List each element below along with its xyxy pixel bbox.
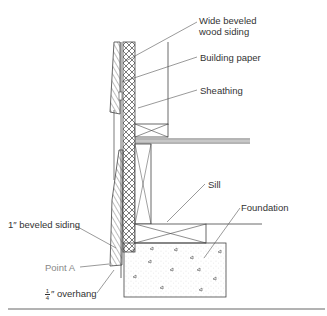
label-wide-siding-line1: Wide beveled — [199, 15, 257, 26]
label-sheathing: Sheathing — [200, 85, 243, 96]
foundation — [124, 243, 226, 297]
header-block — [135, 124, 168, 137]
label-wide-siding-line2: wood siding — [199, 26, 257, 37]
label-building-paper: Building paper — [200, 52, 261, 63]
label-sill: Sill — [208, 179, 221, 190]
wide-beveled-siding — [110, 42, 122, 114]
sill — [135, 224, 262, 243]
stud — [135, 144, 151, 224]
overhang-text: ″ overhang — [51, 288, 97, 299]
label-wide-siding: Wide beveled wood siding — [199, 15, 257, 37]
label-foundation: Foundation — [241, 202, 289, 213]
floor — [135, 139, 250, 143]
wall-section-diagram: Wide beveled wood siding Building paper … — [0, 0, 327, 316]
overhang-fraction: 1 4 — [45, 288, 50, 301]
label-overhang: 1 4 ″ overhang — [45, 288, 97, 301]
label-beveled-siding: 1″ beveled siding — [8, 219, 80, 230]
fraction-denominator: 4 — [45, 295, 50, 301]
sheathing — [123, 42, 135, 252]
label-point-a: Point A — [45, 262, 75, 273]
